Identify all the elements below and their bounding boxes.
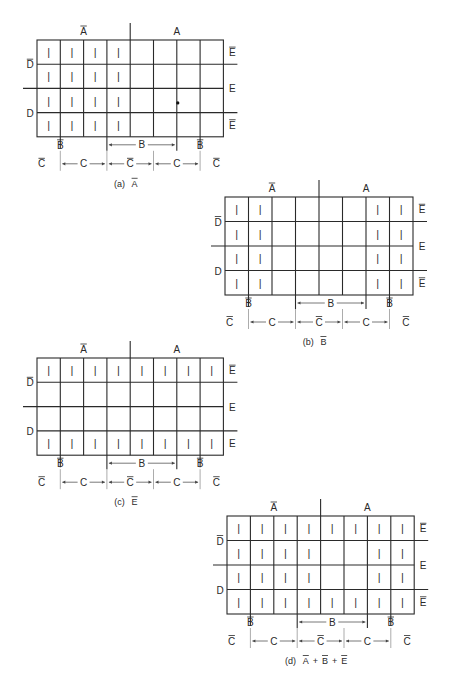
label-c: C [270, 636, 277, 647]
label-c: C [362, 317, 369, 328]
label-c-bar: C [213, 158, 220, 169]
arrow-head-icon [62, 162, 65, 165]
cell-one: | [117, 364, 120, 376]
cell-one: | [401, 522, 404, 534]
cell-one: | [378, 547, 381, 559]
arrow-head-icon [346, 639, 349, 642]
label-c: C [173, 158, 180, 169]
arrow-head-icon [195, 481, 198, 484]
kmap-caption: (c)E [114, 497, 137, 508]
arrow-head-icon [109, 143, 112, 146]
cell-one: | [400, 277, 403, 289]
label-c-bar: C [228, 636, 235, 647]
label-b: B [327, 298, 334, 309]
kmap-d: ||||||||||||||||||||||||||||AADDEEEBBBCC… [213, 499, 428, 666]
label-a-bar: A [80, 26, 87, 37]
cell-one: | [307, 596, 310, 608]
kmap-caption: (b)B [303, 337, 327, 348]
arrow-head-icon [299, 620, 302, 623]
cell-one: | [71, 437, 74, 449]
label-e: E [229, 438, 236, 449]
label-c-bar: C [127, 477, 134, 488]
arrow-head-icon [386, 639, 389, 642]
arrow-head-icon [195, 162, 198, 165]
label-c-bar: C [213, 477, 220, 488]
label-b-bar: B [197, 140, 204, 151]
caption-part: + [313, 656, 318, 666]
label-c-bar: C [317, 636, 324, 647]
cell-one: | [235, 228, 238, 240]
kmap-caption: (a)A [114, 178, 138, 189]
cell-one: | [259, 228, 262, 240]
cell-one: | [187, 437, 190, 449]
cell-one: | [331, 522, 334, 534]
cell-one: | [401, 596, 404, 608]
cell-one: | [235, 203, 238, 215]
label-c: C [80, 477, 87, 488]
cell-one: | [307, 547, 310, 559]
label-c: C [268, 317, 275, 328]
label-c-bar: C [38, 477, 45, 488]
label-e: E [229, 402, 236, 413]
arrow-head-icon [292, 639, 295, 642]
label-e-bar: E [419, 204, 426, 215]
label-a: A [363, 183, 370, 194]
arrow-head-icon [299, 639, 302, 642]
arrow-head-icon [338, 320, 341, 323]
cell-one: | [237, 547, 240, 559]
cell-one: | [140, 437, 143, 449]
caption-part: (a) [114, 179, 125, 189]
arrow-head-icon [149, 162, 152, 165]
cell-one: | [187, 364, 190, 376]
label-b: B [139, 458, 146, 469]
label-c: C [364, 636, 371, 647]
label-b-bar: B [57, 140, 64, 151]
cell-one: | [47, 70, 50, 82]
caption-part: (c) [114, 497, 125, 507]
label-e-bar: E [420, 597, 427, 608]
cell-one: | [235, 277, 238, 289]
caption-part: (b) [303, 337, 314, 347]
kmap-a: ||||||||||||||||AADDEEEBBBCCCCC(a)A [23, 23, 237, 189]
cell-one: | [354, 596, 357, 608]
cell-one: | [401, 547, 404, 559]
cell-one: | [47, 364, 50, 376]
arrow-head-icon [102, 481, 105, 484]
arrow-head-icon [62, 481, 65, 484]
label-a: A [173, 344, 180, 355]
ink-dot [176, 101, 179, 104]
cell-one: | [400, 252, 403, 264]
cell-one: | [210, 364, 213, 376]
cell-one: | [237, 571, 240, 583]
label-c: C [173, 477, 180, 488]
arrow-head-icon [291, 320, 294, 323]
caption-part: + [332, 656, 337, 666]
cell-one: | [94, 70, 97, 82]
cell-one: | [259, 277, 262, 289]
cell-one: | [331, 596, 334, 608]
cell-one: | [47, 119, 50, 131]
cell-one: | [307, 522, 310, 534]
label-e-bar: E [420, 523, 427, 534]
label-d: D [214, 266, 221, 277]
cell-one: | [237, 522, 240, 534]
cell-one: | [261, 547, 264, 559]
label-b-bar: B [245, 298, 252, 309]
arrow-head-icon [385, 320, 388, 323]
label-b-bar: B [57, 458, 64, 469]
cell-one: | [378, 571, 381, 583]
label-e: E [419, 241, 426, 252]
label-e-bar: E [229, 365, 236, 376]
kmap-b: ||||||||||||||||AADDEEEBBBCCCCC(b)B [211, 180, 427, 347]
cell-one: | [376, 203, 379, 215]
cell-one: | [117, 119, 120, 131]
label-b-bar: B [387, 617, 394, 628]
label-c-bar: C [402, 317, 409, 328]
arrow-head-icon [172, 143, 175, 146]
cell-one: | [284, 547, 287, 559]
arrow-head-icon [109, 162, 112, 165]
label-e-bar: E [419, 278, 426, 289]
arrow-head-icon [149, 481, 152, 484]
label-b-bar: B [197, 458, 204, 469]
label-c-bar: C [127, 158, 134, 169]
